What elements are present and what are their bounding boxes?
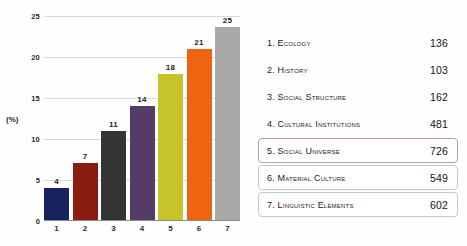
bar-rect-4[interactable] <box>130 106 155 220</box>
x-axis-tick: 6 <box>187 224 212 233</box>
bar-value-label: 21 <box>194 38 203 47</box>
x-axis-tick: 4 <box>130 224 155 233</box>
plot-area: 4 7 11 14 18 <box>44 16 240 221</box>
bar-item: 18 <box>158 16 183 220</box>
bar-item: 4 <box>44 16 69 220</box>
bar-value-label: 14 <box>137 95 146 104</box>
bar-item: 7 <box>73 16 98 220</box>
legend-value: 549 <box>430 172 448 184</box>
legend-label: 2. History <box>267 65 308 75</box>
y-axis-title: (%) <box>6 115 18 124</box>
legend-value: 726 <box>430 145 448 157</box>
y-axis-tick: 15 <box>14 94 40 103</box>
chart-screenshot-root: (%) 25 20 15 10 5 0 4 7 <box>0 0 467 246</box>
legend-item-2[interactable]: 2. History 103 <box>258 57 458 82</box>
legend-item-6[interactable]: 6. Material Culture 549 <box>258 165 458 190</box>
x-axis-tick: 7 <box>215 224 240 233</box>
legend-value: 162 <box>430 91 448 103</box>
legend-list: 1. Ecology 136 2. History 103 3. Social … <box>258 30 458 219</box>
bar-item: 25 <box>215 16 240 220</box>
bar-value-label: 11 <box>109 120 118 129</box>
bar-item: 14 <box>130 16 155 220</box>
legend-value: 602 <box>430 199 448 211</box>
bar-item: 21 <box>187 16 212 220</box>
legend-value: 103 <box>430 64 448 76</box>
x-axis-tick: 3 <box>101 224 126 233</box>
legend-label: 5. Social Universe <box>267 146 340 156</box>
y-axis: (%) 25 20 15 10 5 0 <box>0 0 40 246</box>
legend-label: 1. Ecology <box>267 38 311 48</box>
x-axis-line <box>44 220 240 221</box>
x-axis-tick: 1 <box>44 224 69 233</box>
bar-rect-2[interactable] <box>73 163 98 220</box>
y-axis-tick: 5 <box>14 176 40 185</box>
y-axis-tick: 20 <box>14 53 40 62</box>
legend-label: 3. Social Structure <box>267 92 346 102</box>
legend-label: 4. Cultural Institutions <box>267 119 360 129</box>
legend-item-7[interactable]: 7. Linguistic Elements 602 <box>258 192 458 217</box>
legend-label: 7. Linguistic Elements <box>267 200 354 210</box>
legend-item-3[interactable]: 3. Social Structure 162 <box>258 84 458 109</box>
legend-value: 481 <box>430 118 448 130</box>
legend-value: 136 <box>430 37 448 49</box>
y-axis-tick: 25 <box>14 12 40 21</box>
bar-rect-5[interactable] <box>158 74 183 220</box>
x-axis-tick: 5 <box>158 224 183 233</box>
bar-rect-6[interactable] <box>187 49 212 220</box>
x-axis-tick: 2 <box>73 224 98 233</box>
bar-item: 11 <box>101 16 126 220</box>
y-axis-tick: 0 <box>14 217 40 226</box>
legend-label: 6. Material Culture <box>267 173 345 183</box>
y-axis-tick: 10 <box>14 135 40 144</box>
x-axis: 1 2 3 4 5 6 7 <box>44 224 240 233</box>
bar-value-label: 18 <box>166 63 175 72</box>
bar-chart: (%) 25 20 15 10 5 0 4 7 <box>0 0 250 246</box>
bar-value-label: 25 <box>223 16 232 25</box>
bar-value-label: 4 <box>54 177 59 186</box>
legend-item-1[interactable]: 1. Ecology 136 <box>258 30 458 55</box>
bar-rect-3[interactable] <box>101 131 126 220</box>
legend-item-5[interactable]: 5. Social Universe 726 <box>258 138 458 163</box>
bar-rect-1[interactable] <box>44 188 69 220</box>
legend-item-4[interactable]: 4. Cultural Institutions 481 <box>258 111 458 136</box>
bar-rect-7[interactable] <box>215 27 240 220</box>
bar-group: 4 7 11 14 18 <box>44 16 240 220</box>
bar-value-label: 7 <box>83 152 88 161</box>
